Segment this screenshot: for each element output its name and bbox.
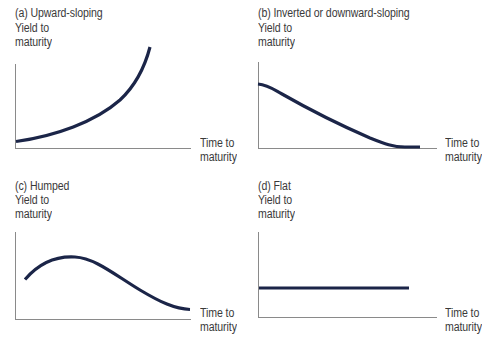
panel-c-curve [25, 257, 190, 310]
panel-b-curve [258, 84, 420, 147]
yield-curve-plots [0, 0, 492, 346]
panel-c-axes [15, 232, 191, 320]
panel-b-axes [258, 62, 437, 149]
panel-d-axes [258, 232, 437, 318]
panel-a-curve [16, 47, 150, 142]
